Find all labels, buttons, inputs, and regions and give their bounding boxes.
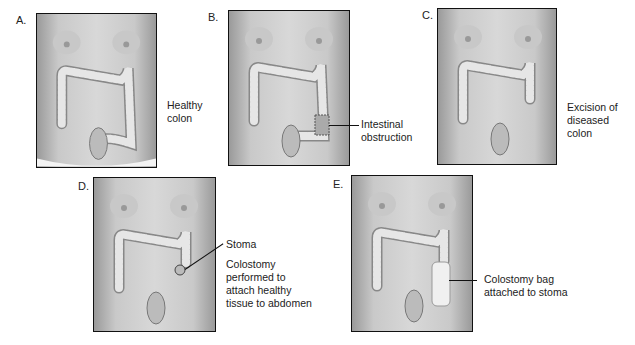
torso-illustration-bag (351, 175, 473, 332)
caption-stoma: Stoma (226, 238, 256, 251)
panel-label-b: B. (208, 11, 218, 23)
torso-illustration-excision (437, 8, 557, 165)
colon-bag-graphic (352, 176, 472, 331)
colon-healthy-graphic (37, 14, 156, 167)
caption-colostomy: Colostomy performed to attach healthy ti… (226, 258, 312, 310)
panel-label-a: A. (16, 14, 26, 26)
torso-illustration-healthy (36, 13, 157, 168)
caption-colostomy-bag: Colostomy bag attached to stoma (484, 273, 567, 299)
colon-excision-graphic (438, 9, 556, 164)
leader-line-bag (449, 280, 477, 281)
torso-illustration-obstruction (228, 10, 350, 166)
panel-label-d: D. (78, 180, 89, 192)
caption-excision: Excision of diseased colon (567, 101, 618, 140)
colon-colostomy-graphic (94, 178, 215, 331)
torso-illustration-colostomy (93, 177, 216, 332)
panel-label-e: E. (333, 178, 343, 190)
panel-label-c: C. (422, 9, 433, 21)
caption-healthy-colon: Healthy colon (167, 99, 203, 125)
colon-obstruction-graphic (229, 11, 349, 165)
caption-intestinal-obstruction: Intestinal obstruction (361, 118, 412, 144)
leader-line-obstruction (329, 125, 359, 126)
